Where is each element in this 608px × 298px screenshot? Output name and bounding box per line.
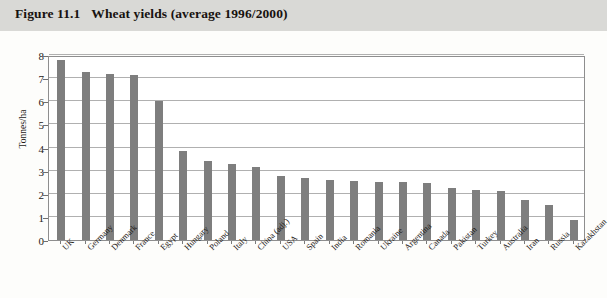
bar-slot xyxy=(440,57,464,240)
y-axis-tick-label: 5 xyxy=(0,119,44,131)
chart-area: Tonnes/ha 012345678 UKGermanyDenmarkFran… xyxy=(0,31,607,298)
x-axis-label-slot: Iran xyxy=(512,243,536,298)
bar-slot xyxy=(122,57,146,240)
y-axis-tick-label: 8 xyxy=(0,50,44,62)
bar-slot xyxy=(318,57,342,240)
y-axis-tick-label: 1 xyxy=(0,212,44,224)
bar-slot xyxy=(98,57,122,240)
figure-title: Figure 11.1Wheat yields (average 1996/20… xyxy=(15,6,288,22)
x-axis-label-slot: India xyxy=(317,243,341,298)
x-axis-label-slot: Argentina xyxy=(390,243,414,298)
bar-slot xyxy=(391,57,415,240)
figure-caption: Wheat yields (average 1996/2000) xyxy=(91,6,287,21)
bar-slot xyxy=(220,57,244,240)
x-axis-label-slot: UK xyxy=(48,243,72,298)
bar-slot xyxy=(464,57,488,240)
bar-slot xyxy=(537,57,561,240)
x-axis-label-slot: Hungary xyxy=(170,243,194,298)
x-axis-label-slot: Pakistan xyxy=(439,243,463,298)
bar-slot xyxy=(513,57,537,240)
bar-slot xyxy=(73,57,97,240)
bar-series xyxy=(49,57,584,240)
gridline xyxy=(49,54,584,55)
x-axis-label-slot: USA xyxy=(268,243,292,298)
x-axis-label-slot: Spain xyxy=(292,243,316,298)
x-axis-label-slot: Italy xyxy=(219,243,243,298)
x-axis-label-slot: Australia xyxy=(487,243,511,298)
y-axis-tick-mark xyxy=(43,241,48,242)
y-axis-tick-label: 2 xyxy=(0,189,44,201)
x-axis-label-slot: Romania xyxy=(341,243,365,298)
bar xyxy=(130,75,138,240)
bar-slot xyxy=(244,57,268,240)
bar-slot xyxy=(293,57,317,240)
x-axis-label-slot: China (adj.) xyxy=(243,243,267,298)
y-axis-tick-label: 7 xyxy=(0,73,44,85)
bar-slot xyxy=(415,57,439,240)
x-axis-label-slot: Denmark xyxy=(97,243,121,298)
figure-title-band: Figure 11.1Wheat yields (average 1996/20… xyxy=(0,0,607,31)
bar xyxy=(179,151,187,240)
bar-slot xyxy=(342,57,366,240)
bar-slot xyxy=(49,57,73,240)
bar-slot xyxy=(562,57,586,240)
bar xyxy=(252,167,260,240)
bar xyxy=(545,205,553,240)
bar xyxy=(155,101,163,240)
x-axis: UKGermanyDenmarkFranceEgyptHungaryPoland… xyxy=(48,243,585,298)
x-axis-label-slot: Canada xyxy=(414,243,438,298)
bar-slot xyxy=(366,57,390,240)
bar xyxy=(350,181,358,240)
bar-slot xyxy=(488,57,512,240)
figure-number: Figure 11.1 xyxy=(15,6,80,21)
bar xyxy=(301,178,309,240)
y-axis-tick-label: 0 xyxy=(0,235,44,247)
x-axis-label-slot: France xyxy=(121,243,145,298)
x-axis-label-slot: Turkey xyxy=(463,243,487,298)
x-axis-label-slot: Kazakhstan xyxy=(561,243,585,298)
bar xyxy=(57,60,65,240)
bar-slot xyxy=(269,57,293,240)
y-axis-tick-label: 6 xyxy=(0,96,44,108)
bar-slot xyxy=(147,57,171,240)
bar-slot xyxy=(195,57,219,240)
y-axis-tick-label: 4 xyxy=(0,143,44,155)
plot-area xyxy=(48,56,585,241)
x-axis-label-slot: Germany xyxy=(72,243,96,298)
bar xyxy=(326,180,334,240)
x-axis-label-slot: Egypt xyxy=(146,243,170,298)
x-axis-label-slot: Russia xyxy=(536,243,560,298)
y-axis-tick-label: 3 xyxy=(0,166,44,178)
x-axis-label-slot: Ukraine xyxy=(365,243,389,298)
bar-slot xyxy=(171,57,195,240)
bar xyxy=(570,220,578,240)
x-axis-label-slot: Poland xyxy=(194,243,218,298)
bar xyxy=(82,72,90,240)
bar xyxy=(228,164,236,240)
bar xyxy=(106,74,114,241)
